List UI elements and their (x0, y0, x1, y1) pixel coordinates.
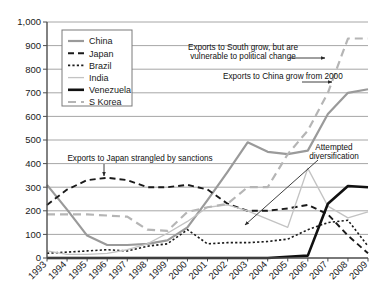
x-axis-tick-label: 1997 (106, 259, 129, 282)
x-axis-tick-label: 2008 (327, 259, 350, 282)
y-axis-tick-label: 300 (25, 182, 41, 193)
y-axis-tick-label: 800 (25, 64, 41, 75)
legend-label: S Korea (89, 97, 122, 107)
x-axis-tick-label: 1996 (86, 259, 109, 282)
line-chart: 01002003004005006007008009001,000 199319… (0, 0, 375, 292)
legend-label: Venezuela (89, 85, 131, 95)
chart-legend: ChinaJapanBrazilIndiaVenezuelaS Korea (62, 30, 132, 107)
y-axis-tick-label: 600 (25, 111, 41, 122)
annotation-arrow (245, 160, 318, 225)
annotation-text: Attempted (315, 143, 353, 152)
legend-label: Brazil (89, 61, 112, 71)
legend-label: China (89, 36, 113, 46)
y-axis-tick-label: 1,000 (17, 16, 41, 27)
annotation-text: Exports to South grow, but are (188, 43, 299, 52)
chart-container: 01002003004005006007008009001,000 199319… (0, 0, 375, 292)
y-axis-tick-label: 200 (25, 205, 41, 216)
x-axis-tick-label: 2007 (307, 259, 330, 282)
x-axis-tick-label: 2006 (286, 259, 309, 282)
x-axis-tick-label: 2002 (206, 259, 229, 282)
annotation-text: Exports to China grow from 2000 (223, 72, 343, 81)
x-axis-ticks: 1993199419951996199719981999200020012002… (26, 258, 370, 281)
annotation-china-growth: Exports to China grow from 2000 (223, 72, 343, 82)
y-axis-tick-label: 100 (25, 229, 41, 240)
x-axis-tick-label: 2009 (347, 259, 370, 282)
annotation-japan-sanctions: Exports to Japan strangled by sanctions (67, 154, 212, 176)
y-axis-ticks: 01002003004005006007008009001,000 (17, 16, 47, 263)
x-axis-tick-label: 2004 (246, 259, 269, 282)
x-axis-tick-label: 2005 (266, 259, 289, 282)
x-axis-tick-label: 2000 (166, 259, 189, 282)
y-axis-tick-label: 900 (25, 40, 41, 51)
x-axis-tick-label: 1993 (26, 259, 49, 282)
x-axis-tick-label: 2001 (186, 259, 209, 282)
x-axis-tick-label: 1999 (146, 259, 169, 282)
legend-label: Japan (89, 49, 114, 59)
x-axis-tick-label: 1995 (66, 259, 89, 282)
y-axis-tick-label: 400 (25, 158, 41, 169)
legend-label: India (89, 73, 109, 83)
series-line-venezuela (47, 186, 368, 258)
x-axis-tick-label: 1998 (126, 259, 149, 282)
x-axis-tick-label: 1994 (46, 259, 69, 282)
x-axis-tick-label: 2003 (226, 259, 249, 282)
annotation-text: diversification (309, 152, 359, 161)
y-axis-tick-label: 700 (25, 87, 41, 98)
annotation-text: Exports to Japan strangled by sanctions (67, 154, 212, 163)
series-line-japan (47, 178, 368, 254)
y-axis-tick-label: 500 (25, 134, 41, 145)
annotation-text: vulnerable to political change (190, 52, 296, 61)
